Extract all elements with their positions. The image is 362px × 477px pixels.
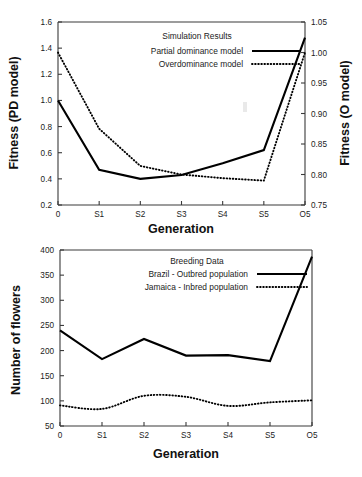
legend-label-jamaica-inbred: Jamaica - Inbred population	[145, 282, 249, 292]
x-axis-title: Generation	[153, 447, 219, 461]
legend-title: Breeding Data	[170, 256, 224, 266]
y-tick-label: 150	[40, 372, 54, 381]
y-tick-label: 50	[45, 422, 55, 431]
x-tick-label: S2	[135, 210, 145, 219]
scan-artifact	[243, 102, 247, 112]
x-tick-label: S2	[139, 431, 149, 440]
y-axis-title: Number of flowers	[9, 285, 23, 395]
y-axis-title-left: Fitness (PD model)	[7, 56, 21, 169]
y-tick-label: 0.4	[41, 175, 53, 184]
x-tick-label: 0	[56, 210, 61, 219]
y2-tick-label: 0.95	[311, 79, 327, 88]
x-tick-label: O5	[307, 431, 318, 440]
x-tick-label: S1	[94, 210, 104, 219]
y-tick-label: 350	[40, 271, 54, 280]
x-tick-label: S4	[223, 431, 233, 440]
chart-panel-breeding-data: 50100150200250300350400 0S1S2S3S4S5O5 Br…	[0, 240, 362, 477]
x-tick-label: 0	[58, 431, 63, 440]
legend-label-brazil-outbred: Brazil - Outbred population	[148, 269, 248, 279]
y-tick-label: 100	[40, 397, 54, 406]
y-tick-label: 0.6	[41, 149, 53, 158]
legend-label-overdominance: Overdominance model	[159, 59, 243, 69]
x-tick-label: S5	[259, 210, 269, 219]
two-panel-line-figure: 0.20.40.60.81.01.21.41.6 0.750.800.850.9…	[0, 0, 362, 477]
x-tick-label: S4	[218, 210, 228, 219]
legend-label-partial-dominance: Partial dominance model	[151, 46, 243, 56]
x-axis-title: Generation	[148, 222, 214, 236]
y-tick-label: 1.6	[41, 18, 53, 27]
breeding-data-chart: 50100150200250300350400 0S1S2S3S4S5O5 Br…	[0, 240, 362, 477]
y-tick-label: 400	[40, 246, 54, 255]
legend-title: Simulation Results	[162, 31, 231, 41]
y-tick-label: 1.4	[41, 44, 53, 53]
y2-tick-label: 0.90	[311, 110, 327, 119]
x-tick-label: S5	[265, 431, 275, 440]
x-tick-label: S3	[181, 431, 191, 440]
y2-tick-label: 0.85	[311, 140, 327, 149]
x-tick-label: S1	[97, 431, 107, 440]
y2-tick-label: 0.75	[311, 201, 327, 210]
simulation-results-chart: 0.20.40.60.81.01.21.41.6 0.750.800.850.9…	[0, 6, 362, 238]
y-tick-label: 1.2	[41, 70, 53, 79]
y2-tick-label: 0.80	[311, 171, 327, 180]
y2-tick-label: 1.05	[311, 18, 327, 27]
y-tick-label: 200	[40, 347, 54, 356]
y-tick-label: 0.2	[41, 201, 53, 210]
y-axis-title-right: Fitness (O model)	[338, 60, 352, 166]
y-tick-label: 300	[40, 296, 54, 305]
y-tick-label: 1.0	[41, 96, 53, 105]
y-tick-label: 0.8	[41, 123, 53, 132]
y2-tick-label: 1.00	[311, 49, 327, 58]
x-tick-label: O5	[300, 210, 311, 219]
y-tick-label: 250	[40, 321, 54, 330]
chart-panel-simulation-results: 0.20.40.60.81.01.21.41.6 0.750.800.850.9…	[0, 6, 362, 238]
x-tick-label: S3	[176, 210, 186, 219]
